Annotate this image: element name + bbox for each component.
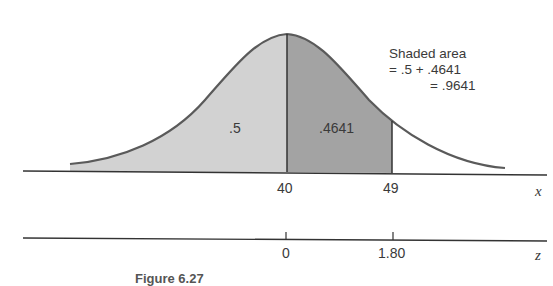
- annotation-line-1: Shaded area: [389, 46, 475, 62]
- annotation-line-3: = .9641: [389, 78, 475, 94]
- x-tick-label-40: 40: [277, 180, 293, 196]
- z-tick-label-0: 0: [282, 245, 290, 261]
- left-shaded-area: [70, 34, 287, 172]
- x-axis-label: x: [535, 183, 542, 200]
- left-area-label: .5: [229, 120, 241, 136]
- z-axis-label: z: [535, 247, 541, 264]
- x-tick-label-49: 49: [383, 180, 399, 196]
- right-area-label: .4641: [319, 120, 354, 136]
- z-tick-label-1-80: 1.80: [378, 245, 405, 261]
- right-shaded-area: [287, 34, 392, 173]
- figure-caption: Figure 6.27: [135, 271, 204, 286]
- annotation-line-2: = .5 + .4641: [389, 62, 475, 78]
- z-axis: [23, 238, 547, 241]
- shaded-area-annotation: Shaded area = .5 + .4641 = .9641: [389, 46, 475, 94]
